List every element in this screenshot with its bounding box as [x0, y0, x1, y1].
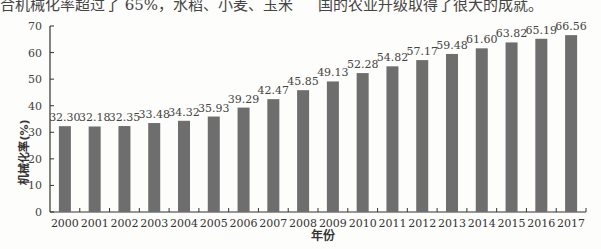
bar-2004 — [178, 121, 190, 212]
bar-2012 — [416, 60, 428, 212]
y-axis-label: 机械化率(%) — [17, 119, 31, 184]
bar-2005 — [208, 117, 220, 212]
bar-value-label: 61.60 — [466, 33, 498, 46]
x-tick-label: 2013 — [438, 217, 466, 230]
x-tick-label: 2002 — [110, 217, 138, 230]
bar-2002 — [118, 126, 130, 212]
x-tick-label: 2007 — [259, 217, 287, 230]
x-tick-label: 2012 — [408, 217, 436, 230]
bar-2015 — [506, 42, 518, 212]
bar-value-label: 52.28 — [347, 58, 379, 71]
bar-value-label: 63.82 — [496, 27, 528, 40]
bar-value-label: 32.30 — [49, 111, 81, 124]
bar-2017 — [565, 35, 577, 212]
x-tick-label: 2015 — [498, 217, 526, 230]
y-tick-label: 50 — [28, 73, 42, 86]
y-tick-label: 60 — [28, 47, 42, 60]
bar-value-label: 59.48 — [436, 39, 468, 52]
bar-2010 — [357, 73, 369, 212]
x-tick-label: 2014 — [468, 217, 496, 230]
bar-2007 — [267, 99, 279, 212]
bar-value-label: 42.47 — [258, 84, 290, 97]
bar-2011 — [386, 66, 398, 212]
bar-2003 — [148, 123, 160, 212]
bar-value-label: 32.35 — [109, 111, 141, 124]
x-tick-label: 2011 — [378, 217, 406, 230]
bar-2014 — [476, 48, 488, 212]
bar-2006 — [238, 108, 250, 212]
bar-2000 — [59, 126, 71, 212]
bar-value-label: 33.48 — [138, 108, 170, 121]
y-tick-label: 40 — [28, 100, 42, 113]
x-tick-label: 2016 — [527, 217, 555, 230]
bar-value-label: 57.17 — [406, 45, 438, 58]
x-tick-label: 2010 — [349, 217, 377, 230]
bar-value-label: 65.19 — [526, 24, 558, 37]
y-tick-label: 0 — [35, 206, 42, 219]
bar-2016 — [535, 39, 547, 212]
x-tick-label: 2000 — [51, 217, 79, 230]
x-tick-label: 2006 — [230, 217, 258, 230]
bar-value-label: 54.82 — [377, 51, 409, 64]
bar-2013 — [446, 54, 458, 212]
bar-value-label: 32.18 — [79, 111, 111, 124]
bar-2009 — [327, 81, 339, 212]
bar-value-label: 34.32 — [168, 106, 200, 119]
x-axis-label: 年份 — [311, 228, 336, 243]
bar-value-label: 66.56 — [555, 20, 587, 33]
bar-value-label: 39.29 — [228, 93, 260, 106]
bar-2008 — [297, 90, 309, 212]
y-tick-label: 70 — [28, 20, 42, 33]
bar-chart: 010203040506070 200020012002200320042005… — [0, 0, 601, 249]
x-tick-label: 2017 — [557, 217, 585, 230]
x-tick-label: 2003 — [140, 217, 168, 230]
bars: 32.3032.1832.3533.4834.3235.9339.2942.47… — [49, 20, 587, 212]
bar-value-label: 49.13 — [317, 66, 349, 79]
x-tick-label: 2004 — [170, 217, 198, 230]
bar-2001 — [89, 126, 101, 212]
bar-value-label: 35.93 — [198, 102, 230, 115]
x-tick-label: 2001 — [81, 217, 109, 230]
bar-value-label: 45.85 — [287, 75, 319, 88]
x-tick-label: 2005 — [200, 217, 228, 230]
